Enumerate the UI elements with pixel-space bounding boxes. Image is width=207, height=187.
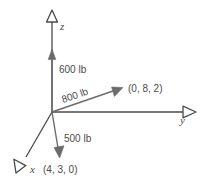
z-axis-label: z (59, 20, 65, 32)
force-500-label: 500 lb (64, 133, 92, 144)
force-vector-diagram: z y x 600 lb 800 lb (0, 0, 207, 187)
force-800-arrowhead-icon (112, 87, 123, 96)
force-800-label: 800 lb (60, 85, 90, 104)
diagram-canvas: z y x 600 lb 800 lb (0, 0, 207, 187)
force-800-vector: 800 lb (52, 85, 123, 112)
z-axis-arrowhead-icon (47, 10, 58, 22)
y-axis: y (52, 106, 196, 126)
force-600-label: 600 lb (59, 64, 87, 75)
y-axis-arrowhead-icon (183, 106, 196, 118)
x-axis-arrowhead-icon (14, 159, 26, 173)
force-600-arrowhead-icon (48, 49, 56, 60)
force-500-vector: 500 lb (52, 112, 92, 158)
x-axis-label: x (29, 163, 35, 175)
force-500-shaft (52, 112, 58, 148)
point-082-label: (0, 8, 2) (128, 83, 162, 94)
force-500-arrowhead-icon (54, 146, 64, 158)
y-axis-label: y (179, 114, 185, 126)
x-axis-line (26, 112, 52, 157)
point-430-label: (4, 3, 0) (43, 164, 77, 175)
